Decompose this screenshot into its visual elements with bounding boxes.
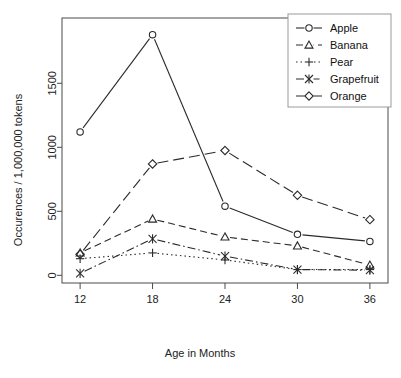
data-point-diamond bbox=[148, 160, 156, 168]
chart-container: 050010001500 1218243036 AppleBananaPearG… bbox=[0, 0, 401, 378]
data-point-circle bbox=[294, 231, 300, 237]
series-segment bbox=[157, 240, 220, 255]
y-axis-ticks: 050010001500 bbox=[46, 71, 62, 278]
series-orange bbox=[76, 146, 374, 258]
data-point-triangle bbox=[221, 233, 229, 240]
x-tick-label: 36 bbox=[364, 293, 376, 305]
data-point-diamond bbox=[366, 215, 374, 223]
legend-label: Orange bbox=[330, 90, 367, 102]
series-segment bbox=[230, 208, 293, 233]
x-axis-title: Age in Months bbox=[165, 347, 236, 359]
series-segment bbox=[302, 197, 365, 218]
data-point-asterisk bbox=[221, 252, 229, 261]
data-point-diamond bbox=[221, 146, 229, 154]
x-tick-label: 12 bbox=[74, 293, 86, 305]
data-point-circle bbox=[367, 238, 373, 244]
x-tick-label: 18 bbox=[146, 293, 158, 305]
series-segment bbox=[157, 220, 220, 236]
series-segment bbox=[158, 253, 220, 259]
series-grapefruit bbox=[76, 234, 374, 278]
legend-label: Grapefruit bbox=[330, 73, 379, 85]
x-tick-label: 30 bbox=[291, 293, 303, 305]
legend-label: Apple bbox=[330, 22, 358, 34]
chart-legend: AppleBananaPearGrapefruitOrange bbox=[288, 14, 391, 107]
line-chart: 050010001500 1218243036 AppleBananaPearG… bbox=[0, 0, 401, 378]
series-segment bbox=[83, 39, 149, 128]
y-axis-title: Occurences / 1,000,000 tokens bbox=[12, 93, 24, 246]
data-point-circle bbox=[77, 129, 83, 135]
y-tick-label: 1000 bbox=[46, 135, 58, 159]
legend-label: Banana bbox=[330, 39, 369, 51]
series-segment bbox=[157, 151, 220, 163]
series-segment bbox=[302, 235, 364, 241]
data-point-asterisk bbox=[149, 234, 157, 243]
data-point-triangle bbox=[149, 215, 157, 222]
series-segment bbox=[230, 261, 293, 269]
legend-item-banana[interactable]: Banana bbox=[296, 39, 369, 51]
data-point-triangle bbox=[293, 242, 301, 249]
data-point-circle bbox=[222, 203, 228, 209]
data-point-asterisk bbox=[76, 269, 84, 278]
series-segment bbox=[230, 257, 293, 269]
x-axis-ticks: 1218243036 bbox=[74, 283, 376, 305]
series-segment bbox=[230, 238, 293, 246]
legend-label: Pear bbox=[330, 56, 354, 68]
x-tick-label: 24 bbox=[219, 293, 231, 305]
series-segment bbox=[83, 168, 149, 250]
series-segment bbox=[155, 39, 224, 201]
y-tick-label: 500 bbox=[46, 202, 58, 220]
series-segment bbox=[229, 153, 293, 193]
series-segment bbox=[302, 247, 365, 264]
legend-item-orange[interactable]: Orange bbox=[296, 90, 367, 102]
data-point-diamond bbox=[293, 191, 301, 199]
legend-item-grapefruit[interactable]: Grapefruit bbox=[296, 73, 379, 85]
y-tick-label: 1500 bbox=[46, 71, 58, 95]
data-point-circle bbox=[149, 31, 155, 37]
series-segment bbox=[85, 241, 148, 271]
y-tick-label: 0 bbox=[46, 272, 58, 278]
data-point-asterisk bbox=[366, 266, 374, 275]
data-point-plus bbox=[148, 249, 156, 257]
